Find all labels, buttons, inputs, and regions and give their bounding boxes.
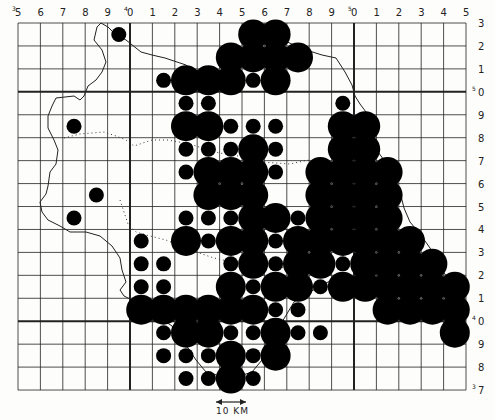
column-label: 9	[329, 7, 335, 18]
record-dot-small	[246, 348, 261, 363]
record-dot-small	[67, 119, 82, 134]
row-label-prefix: 3	[472, 383, 476, 390]
record-dot-large	[283, 272, 313, 302]
record-dot-large	[238, 295, 268, 325]
row-label: 3	[478, 18, 484, 29]
row-label: 9	[478, 339, 484, 350]
record-dot-small	[156, 348, 171, 363]
record-dot-small	[201, 348, 216, 363]
record-dot-small	[201, 210, 216, 225]
column-label: 3	[418, 7, 424, 18]
column-label: 5	[463, 7, 469, 18]
record-dot-large	[171, 226, 201, 256]
record-dot-small	[134, 256, 149, 271]
column-label: 5	[15, 7, 21, 18]
record-dot-small	[179, 348, 194, 363]
record-dot-large	[216, 65, 246, 95]
column-label: 2	[396, 7, 402, 18]
record-dot-small	[179, 371, 194, 386]
record-dot-large	[216, 364, 246, 394]
scale-bar: 10 KM	[216, 399, 249, 416]
row-label: 7	[478, 156, 484, 167]
record-dot-small	[201, 142, 216, 157]
column-label: 5	[239, 7, 245, 18]
record-dot-small	[89, 188, 104, 203]
record-dot-small	[268, 256, 283, 271]
column-label: 8	[306, 7, 312, 18]
record-dot-small	[291, 302, 306, 317]
record-dot-large	[440, 318, 470, 348]
row-label: 1	[478, 293, 484, 304]
column-label: 0	[351, 7, 357, 18]
row-label: 2	[478, 41, 484, 52]
record-dot-small	[291, 325, 306, 340]
record-dot-small	[201, 96, 216, 111]
row-label: 0	[478, 87, 484, 98]
record-dot-small	[335, 256, 350, 271]
record-dot-large	[238, 249, 268, 279]
record-dot-small	[246, 371, 261, 386]
scale-arrow-right-head	[240, 399, 246, 405]
record-dot-large	[261, 203, 291, 233]
record-dot-small	[246, 119, 261, 134]
column-label: 2	[172, 7, 178, 18]
record-dot-small	[313, 279, 328, 294]
record-dot-small	[268, 119, 283, 134]
record-dot-small	[201, 233, 216, 248]
record-dot-small	[179, 142, 194, 157]
column-label: 4	[217, 7, 223, 18]
record-dot-large	[283, 42, 313, 72]
record-dot-small	[156, 73, 171, 88]
record-dot-small	[223, 119, 238, 134]
record-dot-small	[67, 210, 82, 225]
record-dot-small	[179, 210, 194, 225]
record-dot-large	[193, 111, 223, 141]
column-label: 6	[261, 7, 267, 18]
column-label: 7	[284, 7, 290, 18]
column-label: 4	[441, 7, 447, 18]
row-label-prefix: 5	[472, 85, 476, 92]
column-label: 7	[60, 7, 66, 18]
column-label: 1	[149, 7, 155, 18]
column-label: 1	[373, 7, 379, 18]
column-label: 0	[127, 7, 133, 18]
record-dot-large	[261, 341, 291, 371]
record-dot-small	[111, 27, 126, 42]
record-dot-small	[268, 142, 283, 157]
row-label: 8	[478, 133, 484, 144]
record-dot-small	[268, 233, 283, 248]
record-dot-small	[246, 73, 261, 88]
record-dot-small	[201, 371, 216, 386]
record-dot-small	[246, 325, 261, 340]
record-dot-small	[291, 210, 306, 225]
row-label: 2	[478, 270, 484, 281]
row-label-prefix: 4	[472, 314, 476, 321]
record-dot-small	[156, 256, 171, 271]
column-label: 6	[37, 7, 43, 18]
record-dot-small	[246, 279, 261, 294]
row-label: 4	[478, 224, 484, 235]
record-dot-small	[223, 325, 238, 340]
record-dot-small	[223, 256, 238, 271]
row-label: 5	[478, 202, 484, 213]
record-dot-small	[179, 165, 194, 180]
scale-label: 10 KM	[216, 406, 249, 416]
record-dot-small	[156, 325, 171, 340]
row-label: 0	[478, 316, 484, 327]
record-dot-large	[261, 65, 291, 95]
column-label: 8	[82, 7, 88, 18]
record-dot-large	[193, 318, 223, 348]
row-label: 3	[478, 247, 484, 258]
row-label: 6	[478, 179, 484, 190]
record-dot-small	[134, 233, 149, 248]
record-dot-small	[156, 279, 171, 294]
record-dot-small	[313, 325, 328, 340]
record-dot-large	[305, 249, 335, 279]
record-dot-small	[268, 302, 283, 317]
row-label: 1	[478, 64, 484, 75]
record-dot-small	[179, 96, 194, 111]
column-label: 3	[194, 7, 200, 18]
record-dot-small	[134, 279, 149, 294]
record-dot-small	[223, 142, 238, 157]
record-dot-small	[268, 165, 283, 180]
